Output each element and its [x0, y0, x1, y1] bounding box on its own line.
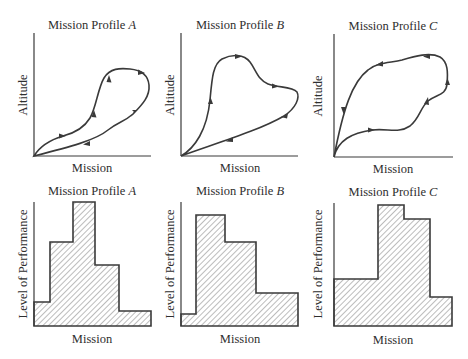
- y-axis-label: Altitude: [16, 74, 30, 115]
- x-axis-label: Mission: [72, 161, 113, 175]
- performance-chart-b: Mission Profile B Mission Level of Perfo…: [163, 184, 298, 346]
- performance-step-area: [181, 215, 298, 326]
- x-axis-label: Mission: [373, 162, 414, 176]
- y-axis-label: Altitude: [163, 74, 177, 115]
- chart-title: Mission Profile B: [196, 18, 285, 32]
- altitude-chart-a: Mission Profile A Mission Altitude: [16, 18, 151, 175]
- chart-title: Mission Profile A: [48, 184, 137, 198]
- x-axis-label: Mission: [220, 332, 261, 346]
- altitude-chart-b: Mission Profile B Mission Altitude: [163, 18, 298, 175]
- performance-step-area: [334, 205, 452, 326]
- mission-path-curve: [334, 55, 447, 157]
- y-axis-label: Level of Performance: [311, 209, 325, 318]
- performance-chart-c: Mission Profile C Mission Level of Perfo…: [311, 185, 452, 347]
- x-axis-label: Mission: [72, 332, 113, 346]
- y-axis-label: Level of Performance: [163, 209, 177, 318]
- direction-arrow-icons: [208, 54, 288, 142]
- mission-profiles-figure: Mission Profile A Mission Altitude Missi…: [0, 0, 468, 359]
- chart-title: Mission Profile B: [196, 184, 285, 198]
- chart-title: Mission Profile C: [349, 19, 439, 33]
- altitude-chart-c: Mission Profile C Mission Altitude: [311, 19, 453, 176]
- x-axis-label: Mission: [220, 161, 261, 175]
- mission-path-curve: [181, 56, 298, 156]
- x-axis-label: Mission: [373, 333, 414, 347]
- y-axis-label: Altitude: [311, 75, 325, 116]
- mission-path-curve: [34, 69, 149, 156]
- chart-title: Mission Profile A: [48, 18, 137, 32]
- direction-arrow-icons: [341, 54, 450, 133]
- performance-chart-a: Mission Profile A Mission Level of Perfo…: [16, 184, 151, 346]
- performance-step-area: [34, 202, 151, 326]
- chart-title: Mission Profile C: [349, 185, 439, 199]
- y-axis-label: Level of Performance: [16, 209, 30, 318]
